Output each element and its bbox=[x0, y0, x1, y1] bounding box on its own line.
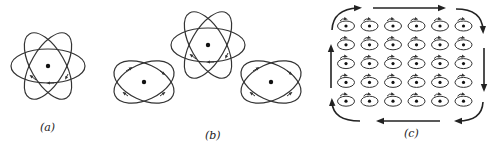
magnetization-diagram: (a) (b) (c) bbox=[0, 0, 497, 150]
current-loop-icon bbox=[432, 94, 449, 106]
current-loop-icon bbox=[361, 56, 378, 68]
current-loop-icon bbox=[385, 56, 402, 68]
current-loop-icon bbox=[338, 56, 355, 68]
current-loop-icon bbox=[361, 94, 378, 106]
current-loop-icon bbox=[408, 56, 425, 68]
current-loop-icon bbox=[455, 56, 472, 68]
atom-top-icon bbox=[171, 4, 245, 85]
atom-left-icon bbox=[107, 52, 180, 112]
panel-c-label: (c) bbox=[404, 127, 419, 140]
panel-a-label: (a) bbox=[40, 121, 55, 134]
atom-right-icon bbox=[234, 52, 307, 112]
current-loop-icon bbox=[385, 38, 402, 50]
current-loop-icon bbox=[455, 94, 472, 106]
current-loop-icon bbox=[432, 38, 449, 50]
current-loop-icon bbox=[338, 75, 355, 87]
current-loop-icon bbox=[385, 19, 402, 31]
current-loop-icon bbox=[361, 75, 378, 87]
current-loop-icon bbox=[338, 94, 355, 106]
current-loop-icon bbox=[432, 56, 449, 68]
current-loop-icon bbox=[432, 75, 449, 87]
current-loop-icon bbox=[408, 94, 425, 106]
current-loop-icon bbox=[361, 19, 378, 31]
current-loop-icon bbox=[338, 19, 355, 31]
current-loop-icon bbox=[385, 75, 402, 87]
panel-b-label: (b) bbox=[205, 129, 221, 142]
current-loop-icon bbox=[385, 94, 402, 106]
current-loop-icon bbox=[408, 38, 425, 50]
current-loop-icon bbox=[455, 19, 472, 31]
panel-b: (b) bbox=[107, 4, 307, 142]
panel-a: (a) bbox=[11, 25, 85, 134]
current-loop-icon bbox=[338, 38, 355, 50]
current-loop-icon bbox=[455, 38, 472, 50]
current-loop-icon bbox=[361, 38, 378, 50]
current-loop-icon bbox=[432, 19, 449, 31]
current-loop-icon bbox=[408, 19, 425, 31]
panel-c bbox=[338, 19, 473, 106]
atom-icon bbox=[11, 25, 85, 106]
current-loop-icon bbox=[408, 75, 425, 87]
current-loop-icon bbox=[455, 75, 472, 87]
